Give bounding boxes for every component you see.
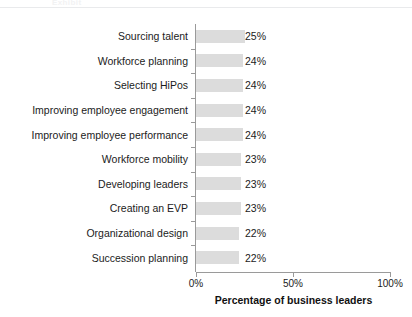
- bar: [196, 54, 243, 67]
- y-axis-tick: [191, 172, 196, 173]
- chart-row: Developing leaders23%: [0, 172, 412, 197]
- y-axis-tick: [191, 196, 196, 197]
- bar: [196, 153, 241, 166]
- bar-value-label: 23%: [245, 178, 266, 190]
- bar: [196, 227, 239, 240]
- bar: [196, 30, 245, 43]
- category-label: Improving employee engagement: [0, 104, 188, 116]
- chart-row: Organizational design22%: [0, 221, 412, 246]
- bar: [196, 202, 241, 215]
- bar-value-label: 24%: [245, 55, 266, 67]
- bar-value-label: 25%: [245, 30, 266, 42]
- category-label: Improving employee performance: [0, 129, 188, 141]
- x-axis-tick-label: 50%: [283, 278, 303, 290]
- category-label: Workforce mobility: [0, 153, 188, 165]
- x-axis-tick-label: 0%: [189, 278, 203, 290]
- horizontal-bar-chart: Sourcing talent25%Workforce planning24%S…: [0, 0, 412, 317]
- chart-row: Workforce planning24%: [0, 49, 412, 74]
- bar-value-label: 23%: [245, 202, 266, 214]
- chart-row: Workforce mobility23%: [0, 147, 412, 172]
- bar-value-label: 22%: [245, 227, 266, 239]
- y-axis-tick: [191, 73, 196, 74]
- x-axis-title: Percentage of business leaders: [196, 294, 391, 306]
- chart-row: Creating an EVP23%: [0, 196, 412, 221]
- category-label: Creating an EVP: [0, 202, 188, 214]
- chart-row: Improving employee engagement24%: [0, 98, 412, 123]
- category-label: Selecting HiPos: [0, 79, 188, 91]
- bar: [196, 177, 241, 190]
- bar: [196, 104, 243, 117]
- y-axis-tick: [191, 147, 196, 148]
- chart-row: Succession planning22%: [0, 245, 412, 270]
- chart-row: Improving employee performance24%: [0, 122, 412, 147]
- y-axis-tick: [191, 98, 196, 99]
- bar-value-label: 22%: [245, 252, 266, 264]
- x-axis-tick: [390, 273, 391, 277]
- bar-value-label: 23%: [245, 153, 266, 165]
- bar: [196, 128, 243, 141]
- bar: [196, 251, 239, 264]
- x-axis-tick: [196, 273, 197, 277]
- y-axis-tick: [191, 122, 196, 123]
- x-axis-tick: [293, 273, 294, 277]
- category-label: Workforce planning: [0, 55, 188, 67]
- chart-row: Sourcing talent25%: [0, 24, 412, 49]
- category-label: Succession planning: [0, 252, 188, 264]
- category-label: Sourcing talent: [0, 30, 188, 42]
- category-label: Organizational design: [0, 227, 188, 239]
- bar: [196, 79, 243, 92]
- chart-row: Selecting HiPos24%: [0, 73, 412, 98]
- y-axis-tick: [191, 245, 196, 246]
- bar-value-label: 24%: [245, 79, 266, 91]
- bar-value-label: 24%: [245, 129, 266, 141]
- category-label: Developing leaders: [0, 178, 188, 190]
- x-axis-tick-label: 100%: [377, 278, 403, 290]
- y-axis-tick: [191, 49, 196, 50]
- y-axis-tick: [191, 221, 196, 222]
- bar-value-label: 24%: [245, 104, 266, 116]
